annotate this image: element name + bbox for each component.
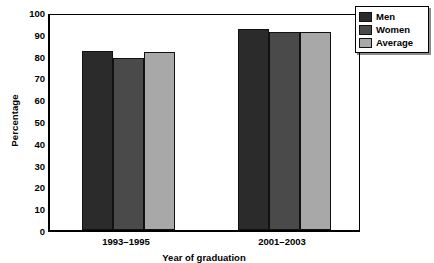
legend-item-label: Men bbox=[376, 12, 395, 22]
legend-item: Women bbox=[359, 23, 424, 36]
y-axis-tick-label: 60 bbox=[19, 96, 45, 106]
y-axis-tick-label: 40 bbox=[19, 140, 45, 150]
y-axis-tick-label: 20 bbox=[19, 184, 45, 194]
y-axis-tick-label: 10 bbox=[19, 205, 45, 215]
y-axis-tick-label: 100 bbox=[19, 9, 45, 19]
bar bbox=[238, 29, 269, 230]
bar bbox=[269, 32, 300, 230]
legend-swatch-icon bbox=[359, 38, 372, 48]
bar bbox=[82, 51, 113, 230]
x-axis-title: Year of graduation bbox=[162, 252, 245, 263]
legend-swatch-icon bbox=[359, 12, 372, 22]
legend-swatch-icon bbox=[359, 25, 372, 35]
y-axis-tick-label: 50 bbox=[19, 118, 45, 128]
y-axis-tick-label: 0 bbox=[19, 227, 45, 237]
plot-area bbox=[48, 14, 360, 232]
bar bbox=[144, 52, 175, 230]
bar bbox=[300, 32, 331, 230]
x-axis-category-label: 2001–2003 bbox=[258, 236, 306, 247]
y-axis-tick-labels: 0102030405060708090100 bbox=[17, 0, 45, 262]
y-axis-tick-label: 70 bbox=[19, 75, 45, 85]
bar bbox=[113, 58, 144, 230]
legend-item-label: Average bbox=[376, 38, 413, 48]
legend-item: Average bbox=[359, 36, 424, 49]
y-axis-tick-label: 90 bbox=[19, 31, 45, 41]
y-axis-tick-label: 80 bbox=[19, 53, 45, 63]
bars-layer bbox=[50, 15, 359, 230]
legend-item: Men bbox=[359, 10, 424, 23]
y-axis-tick-label: 30 bbox=[19, 162, 45, 172]
legend: MenWomenAverage bbox=[355, 6, 429, 53]
legend-item-label: Women bbox=[376, 25, 410, 35]
x-axis-category-label: 1993–1995 bbox=[102, 236, 150, 247]
